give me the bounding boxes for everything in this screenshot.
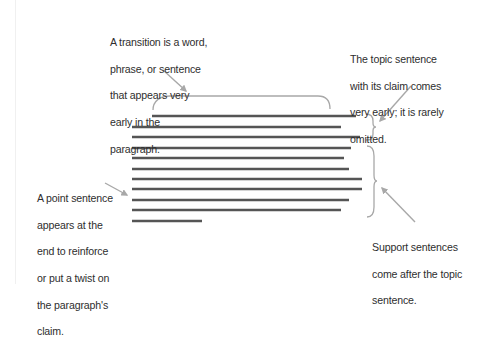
callout-line: claim. — [37, 325, 113, 338]
callout-line: The topic sentence — [350, 53, 444, 66]
callout-line: come after the topic — [372, 268, 462, 281]
callout-line: paragraph. — [110, 143, 207, 156]
callout-line: phrase, or sentence — [110, 63, 207, 76]
callout-line: appears at the — [37, 219, 113, 232]
callout-line: omitted. — [350, 133, 444, 146]
callout-line: A transition is a word, — [110, 36, 207, 49]
callout-line: end to reinforce — [37, 245, 113, 258]
support-callout: Support sentences come after the topic s… — [372, 228, 462, 321]
callout-line: the paragraph's — [37, 299, 113, 312]
callout-line: with its claim comes — [350, 80, 444, 93]
support-arrow — [382, 188, 415, 222]
callout-line: or put a twist on — [37, 272, 113, 285]
callout-line: sentence. — [372, 294, 462, 307]
callout-line: Support sentences — [372, 241, 462, 254]
callout-line: very early; it is rarely — [350, 106, 444, 119]
point-callout: A point sentence appears at the end to r… — [37, 179, 113, 339]
callout-line: A point sentence — [37, 192, 113, 205]
callout-line: that appears very — [110, 89, 207, 102]
topic-callout: The topic sentence with its claim comes … — [350, 40, 444, 160]
transition-callout: A transition is a word, phrase, or sente… — [110, 23, 207, 169]
callout-line: early in the — [110, 116, 207, 129]
